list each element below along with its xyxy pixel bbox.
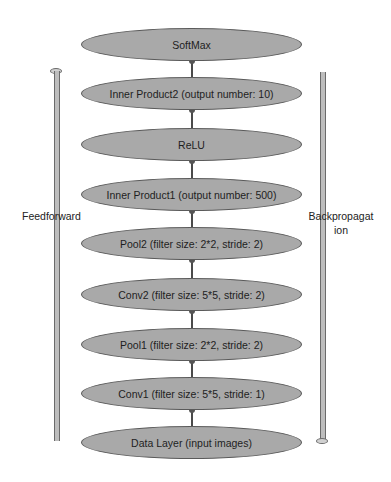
layer-label: Conv2 (filter size: 5*5, stride: 2)	[118, 289, 264, 301]
feedforward-label: Feedforward	[22, 209, 81, 223]
layer-label: Pool1 (filter size: 2*2, stride: 2)	[120, 339, 263, 351]
layer-softmax: SoftMax	[81, 28, 302, 61]
layer-data: Data Layer (input images)	[81, 426, 302, 459]
feedforward-label-text: Feedforward	[22, 210, 81, 222]
feedforward-arrow-shaft	[54, 71, 60, 441]
layer-label: ReLU	[178, 139, 205, 151]
layer-conv2: Conv2 (filter size: 5*5, stride: 2)	[81, 278, 302, 311]
layer-pool1: Pool1 (filter size: 2*2, stride: 2)	[81, 328, 302, 361]
layer-label: Data Layer (input images)	[131, 437, 252, 449]
layer-label: Pool2 (filter size: 2*2, stride: 2)	[120, 238, 263, 250]
layer-label: Inner Product2 (output number: 10)	[109, 88, 273, 100]
layer-label: SoftMax	[172, 39, 211, 51]
layer-relu: ReLU	[81, 128, 302, 161]
layer-label: Inner Product1 (output number: 500)	[107, 189, 277, 201]
layer-pool2: Pool2 (filter size: 2*2, stride: 2)	[81, 227, 302, 260]
backpropagation-label-line2: ion	[306, 223, 376, 237]
layer-conv1: Conv1 (filter size: 5*5, stride: 1)	[81, 377, 302, 410]
layer-inner-product2: Inner Product2 (output number: 10)	[81, 77, 302, 110]
backpropagation-label-line1: Backpropagat	[306, 209, 376, 223]
backpropagation-label: Backpropagat ion	[306, 209, 376, 237]
layer-inner-product1: Inner Product1 (output number: 500)	[81, 178, 302, 211]
backpropagation-arrow-shaft	[320, 72, 326, 440]
arrow-head-down-icon	[316, 438, 328, 444]
layer-label: Conv1 (filter size: 5*5, stride: 1)	[118, 388, 264, 400]
